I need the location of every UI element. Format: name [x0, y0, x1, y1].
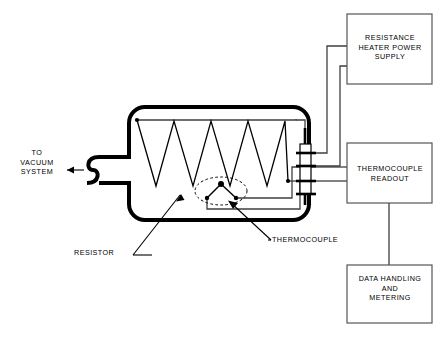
- box-label-resistance-heater-power-supply: RESISTANCE HEATER POWER SUPPLY: [352, 33, 428, 62]
- callout-label-resistor: RESISTOR: [74, 248, 132, 258]
- psu-wire-1: [316, 46, 347, 153]
- electrical-feedthrough: [296, 128, 316, 205]
- resistor-zigzag-coil: [137, 120, 288, 186]
- box-label-thermocouple-readout: THERMOCOUPLE READOUT: [352, 164, 428, 183]
- box-label-data-handling-and-metering: DATA HANDLING AND METERING: [352, 274, 428, 303]
- vacuum-bellows: [87, 157, 99, 183]
- resistor-coil-path: [137, 120, 288, 186]
- vacuum-arrowhead: [67, 167, 74, 174]
- thermocouple-leg-right: [221, 184, 236, 198]
- callout-label-vacuum-system: TO VACUUM SYSTEM: [8, 148, 66, 177]
- thermocouple-junction: [195, 177, 247, 205]
- thermocouple-node-right: [234, 196, 238, 200]
- resistor-leader-line: [133, 195, 180, 255]
- port-opening-mask: [120, 157, 136, 183]
- chamber-wall: [129, 107, 309, 220]
- coil-node-right: [286, 179, 290, 183]
- diagram-canvas: RESISTANCE HEATER POWER SUPPLY THERMOCOU…: [0, 0, 448, 340]
- vacuum-chamber: [87, 107, 309, 220]
- thermocouple-node-left: [205, 196, 209, 200]
- callout-label-thermocouple: THERMOCOUPLE: [272, 235, 352, 245]
- coil-node-left: [135, 118, 139, 122]
- thermocouple-hot-junction-node: [218, 181, 224, 187]
- psu-wire-2: [316, 66, 347, 166]
- heater-wire-left: [137, 119, 296, 120]
- feedthrough-insulator: [300, 144, 311, 194]
